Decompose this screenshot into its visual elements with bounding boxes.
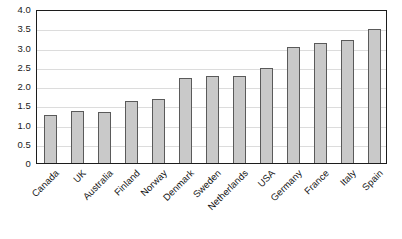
bar-chart: 00.51.01.52.02.53.03.54.0 CanadaUKAustra… bbox=[0, 0, 402, 239]
y-axis-tick-label: 4.0 bbox=[0, 5, 31, 15]
bar[interactable] bbox=[152, 99, 165, 163]
x-axis-tick-label: Canada bbox=[30, 168, 61, 199]
bar[interactable] bbox=[233, 76, 246, 163]
y-axis-tick-label: 1.5 bbox=[0, 102, 31, 112]
y-axis-tick-label: 2.0 bbox=[0, 82, 31, 92]
bar[interactable] bbox=[98, 112, 111, 163]
y-axis-tick-label: 0.5 bbox=[0, 140, 31, 150]
bar[interactable] bbox=[206, 76, 219, 163]
x-axis: CanadaUKAustraliaFinlandNorwayDenmarkSwe… bbox=[36, 164, 387, 239]
bar[interactable] bbox=[125, 101, 138, 163]
bars-layer bbox=[37, 11, 386, 163]
x-axis-tick-label: Spain bbox=[360, 168, 384, 192]
bar[interactable] bbox=[44, 115, 57, 163]
y-axis-tick-label: 0 bbox=[0, 159, 31, 169]
y-axis-tick-label: 3.0 bbox=[0, 44, 31, 54]
y-axis-tick-label: 1.0 bbox=[0, 121, 31, 131]
bar[interactable] bbox=[71, 111, 84, 163]
bar[interactable] bbox=[341, 40, 354, 163]
bar[interactable] bbox=[368, 29, 381, 163]
y-axis-tick-label: 3.5 bbox=[0, 25, 31, 35]
y-axis-tick-label: 2.5 bbox=[0, 63, 31, 73]
bar[interactable] bbox=[287, 47, 300, 163]
x-axis-tick-label: France bbox=[302, 168, 330, 196]
x-axis-tick-label: Finland bbox=[112, 168, 141, 197]
x-axis-tick-label: USA bbox=[255, 168, 276, 189]
bar[interactable] bbox=[314, 43, 327, 163]
x-axis-tick-label: UK bbox=[71, 168, 87, 184]
plot-area bbox=[36, 10, 387, 164]
x-axis-tick-label: Italy bbox=[338, 168, 357, 187]
y-axis: 00.51.01.52.02.53.03.54.0 bbox=[0, 0, 31, 239]
bar[interactable] bbox=[260, 68, 273, 163]
bar[interactable] bbox=[179, 78, 192, 163]
